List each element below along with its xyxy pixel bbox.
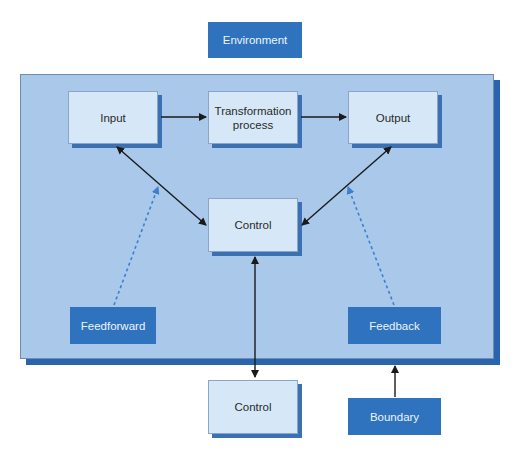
node-input-label: Input: [100, 111, 126, 125]
environment-label: Environment: [208, 22, 302, 58]
node-transformation-process: Transformation process: [208, 91, 298, 144]
node-feedback: Feedback: [348, 307, 441, 344]
node-input: Input: [68, 91, 158, 144]
node-control-inner: Control: [208, 198, 298, 252]
node-transformation-label: Transformation process: [209, 104, 297, 132]
node-control-inner-label: Control: [234, 218, 271, 232]
node-feedforward: Feedforward: [70, 307, 156, 344]
node-output: Output: [348, 91, 438, 144]
node-output-label: Output: [376, 111, 411, 125]
node-control-outer: Control: [208, 380, 298, 434]
node-boundary: Boundary: [348, 398, 441, 435]
node-control-outer-label: Control: [234, 400, 271, 414]
